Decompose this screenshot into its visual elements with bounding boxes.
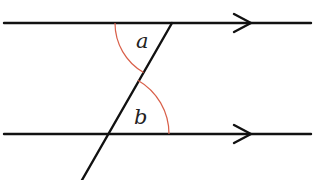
alternate-angles-diagram: a b <box>0 0 329 180</box>
angle-a-label: a <box>136 29 149 53</box>
transversal-line <box>82 23 172 180</box>
angle-b-label: b <box>134 105 147 129</box>
